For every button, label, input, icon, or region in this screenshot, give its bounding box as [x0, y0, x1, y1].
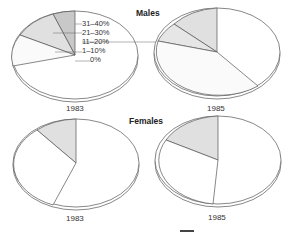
pie-females-1983: [13, 119, 139, 210]
pie-females-1985: [155, 116, 281, 207]
legend-1-10: 1–10%: [82, 46, 106, 55]
year-label-males-1983: 1983: [66, 104, 84, 113]
year-label-females-1985: 1985: [208, 213, 226, 222]
year-label-females-1983: 1983: [66, 214, 84, 223]
pie-males-1983: [12, 11, 138, 102]
legend-31-40: 31–40%: [82, 19, 110, 28]
legend-21-30: 21–30%: [82, 28, 110, 37]
females-title: Females: [129, 116, 163, 126]
pie-chart-figure: 31–40% 21–30% 11–20% 1–10% 0% Males 1983…: [0, 0, 292, 237]
mark: [180, 230, 194, 232]
year-label-males-1985: 1985: [207, 104, 225, 113]
males-title: Males: [136, 8, 160, 18]
legend-0: 0%: [90, 55, 101, 64]
pie-males-1985: [154, 8, 280, 99]
legend-11-20: 11–20%: [82, 37, 109, 46]
